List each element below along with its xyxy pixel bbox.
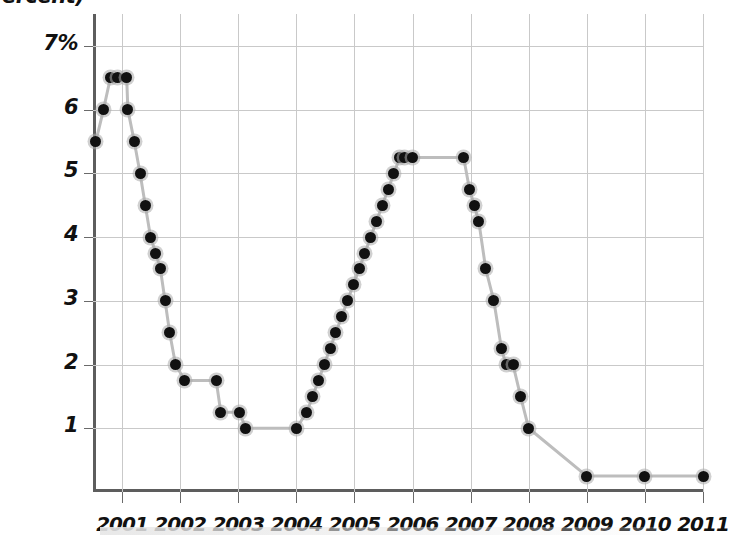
y-axis-tick-label: 3 <box>8 286 78 310</box>
x-axis-tick <box>703 492 704 503</box>
data-point-marker <box>160 295 171 306</box>
y-axis-tick <box>84 110 93 111</box>
data-point-marker <box>698 471 709 482</box>
x-axis-tick <box>645 492 646 503</box>
plot-area <box>93 14 703 492</box>
data-point-marker <box>313 375 324 386</box>
y-axis-tick-label: 7% <box>8 31 78 55</box>
data-point-marker <box>508 359 519 370</box>
data-point-marker <box>464 184 475 195</box>
x-axis-tick <box>238 492 239 503</box>
y-axis-tick-label: 4 <box>8 222 78 246</box>
data-point-marker <box>325 343 336 354</box>
page-artifact <box>100 527 660 535</box>
y-axis-tick-label: 5 <box>8 158 78 182</box>
data-point-marker <box>359 248 370 259</box>
y-axis-tick-label: 6 <box>8 95 78 119</box>
y-axis-tick <box>84 301 93 302</box>
data-point-marker <box>150 248 161 259</box>
data-point-marker <box>383 184 394 195</box>
data-point-marker <box>98 104 109 115</box>
data-point-marker <box>140 200 151 211</box>
x-axis-tick-label: 2011 <box>668 512 738 536</box>
x-axis-tick <box>354 492 355 503</box>
series-polyline <box>96 78 703 476</box>
x-axis-tick <box>296 492 297 503</box>
data-point-marker <box>496 343 507 354</box>
data-point-marker <box>639 471 650 482</box>
x-axis-tick <box>413 492 414 503</box>
data-point-marker <box>234 407 245 418</box>
data-point-marker <box>515 391 526 402</box>
x-axis-tick <box>180 492 181 503</box>
y-axis-tick-label: 2 <box>8 350 78 374</box>
data-point-marker <box>211 375 222 386</box>
data-point-marker <box>135 168 146 179</box>
x-axis-tick <box>587 492 588 503</box>
y-axis-tick <box>84 237 93 238</box>
y-axis-unit-label: ercent) <box>2 0 84 8</box>
series-line <box>93 14 703 492</box>
data-point-marker <box>473 216 484 227</box>
data-point-marker <box>129 136 140 147</box>
data-point-marker <box>240 423 251 434</box>
x-axis-tick <box>471 492 472 503</box>
data-point-marker <box>523 423 534 434</box>
data-point-marker <box>319 359 330 370</box>
y-axis-tick <box>84 46 93 47</box>
data-point-marker <box>365 232 376 243</box>
gridline-vertical <box>703 14 704 492</box>
data-point-marker <box>371 216 382 227</box>
y-axis-tick <box>84 173 93 174</box>
data-point-marker <box>581 471 592 482</box>
data-point-marker <box>469 200 480 211</box>
x-axis-tick <box>529 492 530 503</box>
chart-canvas: ercent) 1234567% 20012002200320042005200… <box>0 0 751 549</box>
y-axis-tick <box>84 365 93 366</box>
data-point-marker <box>291 423 302 434</box>
y-axis-tick-label: 1 <box>8 413 78 437</box>
data-point-marker <box>377 200 388 211</box>
data-point-marker <box>458 152 469 163</box>
x-axis-tick <box>122 492 123 503</box>
data-point-marker <box>145 232 156 243</box>
data-point-marker <box>170 359 181 370</box>
y-axis-tick <box>84 428 93 429</box>
data-point-marker <box>307 391 318 402</box>
data-point-marker <box>407 152 418 163</box>
data-point-marker <box>354 263 365 274</box>
